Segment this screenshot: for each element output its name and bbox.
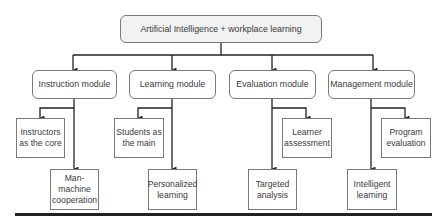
leaf-program-evaluation: Program evaluation (381, 118, 431, 158)
leaf-label: Intelligent learning (354, 179, 391, 201)
leaf-instructors-as-the-core: Instructors as the core (16, 118, 65, 158)
leaf-targeted-analysis: Targeted analysis (248, 169, 297, 210)
root-node: Artificial Intelligence + workplace lear… (120, 15, 322, 43)
module-learning: Learning module (129, 70, 216, 99)
module-instruction: Instruction module (32, 70, 117, 99)
leaf-man-machine-cooperation: Man- machine cooperation (50, 169, 99, 210)
leaf-students-as-the-main: Students as the main (114, 118, 164, 158)
leaf-personalized-learning: Personalized learning (148, 169, 197, 210)
leaf-label: Instructors as the core (19, 127, 62, 149)
leaf-label: Man- machine cooperation (52, 173, 97, 206)
leaf-label: Students as the main (116, 127, 161, 149)
module-label: Instruction module (39, 79, 111, 90)
leaf-label: Personalized learning (148, 179, 198, 201)
module-label: Management module (330, 79, 413, 90)
leaf-label: Program evaluation (386, 127, 425, 149)
bottom-rule (15, 213, 432, 216)
module-evaluation: Evaluation module (229, 70, 316, 99)
module-label: Learning module (140, 79, 206, 90)
leaf-intelligent-learning: Intelligent learning (347, 169, 397, 210)
module-management: Management module (328, 70, 415, 99)
leaf-label: Learner assessment (284, 127, 330, 149)
root-label: Artificial Intelligence + workplace lear… (140, 24, 301, 35)
leaf-label: Targeted analysis (256, 179, 289, 201)
leaf-learner-assessment: Learner assessment (282, 118, 332, 158)
module-label: Evaluation module (236, 79, 308, 90)
